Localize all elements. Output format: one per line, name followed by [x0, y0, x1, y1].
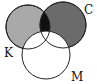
label-k: K [4, 46, 14, 60]
venn-diagram: C K M [0, 0, 97, 84]
set-m-circle [22, 31, 70, 79]
label-c: C [84, 3, 93, 17]
label-m: M [71, 70, 83, 84]
